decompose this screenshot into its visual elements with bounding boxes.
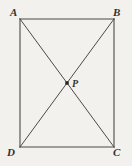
vertex-label-b: B [113,7,120,18]
geometry-figure: A B C D P [0,0,132,166]
point-marker-P [65,81,68,84]
vertex-label-d: D [7,147,15,158]
vertex-label-c: C [113,147,120,158]
point-label-p: P [72,79,78,89]
geometry-canvas [0,0,132,166]
vertex-label-a: A [10,7,17,18]
